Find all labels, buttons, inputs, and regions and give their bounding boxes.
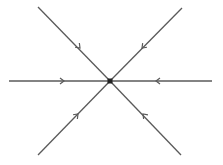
trajectory-upper-left: [38, 7, 110, 81]
equilibrium-point: [108, 79, 113, 84]
trajectory-upper-right: [110, 8, 182, 81]
trajectory-lower-right: [110, 81, 181, 155]
trajectory-right: [110, 78, 212, 84]
trajectory-lower-left: [38, 81, 110, 155]
trajectory-left: [9, 78, 110, 84]
trajectory-line: [38, 81, 110, 155]
diagram-canvas: [0, 0, 223, 165]
trajectory-line: [110, 81, 181, 155]
phase-portrait-diagram: Stable star node (sink): six trajectorie…: [0, 0, 223, 165]
trajectory-line: [110, 8, 182, 81]
trajectory-line: [38, 7, 110, 81]
